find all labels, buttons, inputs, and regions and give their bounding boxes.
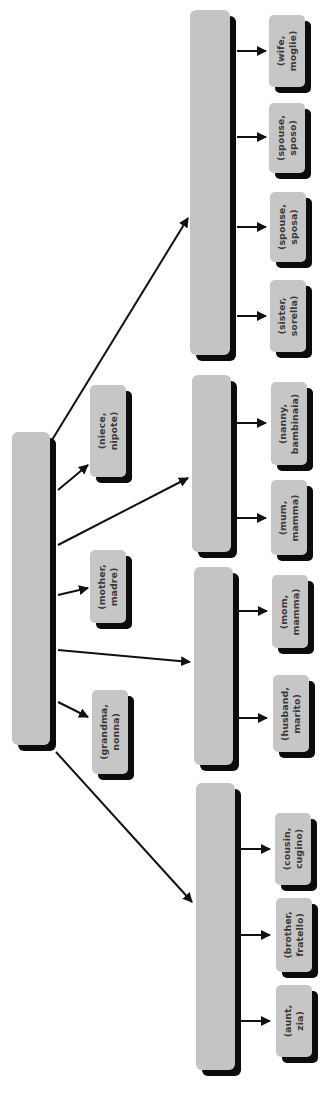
node-label-line1: (brother, xyxy=(282,912,294,959)
group-node-3 xyxy=(194,567,233,765)
node-mother: (mother,madre) xyxy=(90,550,126,623)
node-label-line1: (husband, xyxy=(279,687,291,741)
node-label-line2: mamma) xyxy=(289,494,301,541)
arrow-root-to-group-4 xyxy=(56,752,192,902)
node-label-line1: (wife, xyxy=(275,31,287,72)
node-label-line1: (spouse, xyxy=(276,204,288,250)
node-label-line2: nipote) xyxy=(108,412,120,451)
arrow-root-to-mother xyxy=(58,588,88,595)
node-label-line1: (niece, xyxy=(96,412,108,451)
leaf-nanny: (nanny,bambinaia) xyxy=(271,382,307,465)
node-label-line2: madre) xyxy=(108,564,120,609)
node-label-line1: (spouse, xyxy=(275,115,287,161)
node-label-line1: (nanny, xyxy=(277,393,289,453)
node-label-line1: (mother, xyxy=(96,564,108,609)
node-label-line2: nonna) xyxy=(110,704,122,760)
leaf-brother: (brother,fratello) xyxy=(276,898,312,972)
leaf-spouse-sposa: (spouse,sposa) xyxy=(270,192,306,262)
group-node-4 xyxy=(196,783,235,1070)
leaf-mom: (mom,mamma) xyxy=(272,575,308,648)
node-label-line1: (grandma, xyxy=(98,704,110,760)
node-label-line1: (aunt, xyxy=(282,1005,294,1037)
arrow-root-to-group-3 xyxy=(58,650,190,662)
node-niece: (niece,nipote) xyxy=(90,385,126,477)
node-label-line1: (mom, xyxy=(278,588,290,635)
leaf-aunt: (aunt,zia) xyxy=(276,985,312,1057)
root-node xyxy=(12,432,50,745)
arrow-root-to-grandma xyxy=(58,702,88,717)
node-label-line2: sorella) xyxy=(288,296,300,337)
node-label-line1: (cousin, xyxy=(281,828,293,871)
node-label-line2: bambinaia) xyxy=(289,393,301,453)
arrow-root-to-niece xyxy=(58,465,88,490)
node-label-line1: (sister, xyxy=(276,296,288,337)
group-node-2 xyxy=(192,375,231,552)
arrow-root-to-group-2 xyxy=(58,478,188,545)
leaf-mum: (mum,mamma) xyxy=(271,480,307,555)
leaf-husband: (husband,marito) xyxy=(273,675,309,752)
node-label-line2: zia) xyxy=(294,1005,306,1037)
node-label-line2: moglie) xyxy=(287,31,299,72)
node-label-line2: mamma) xyxy=(290,588,302,635)
node-grandma: (grandma,nonna) xyxy=(92,690,128,774)
node-label-line2: fratello) xyxy=(294,912,306,959)
node-label-line2: marito) xyxy=(291,687,303,741)
leaf-cousin: (cousin,cugino) xyxy=(275,813,311,885)
node-label-line1: (mum, xyxy=(277,494,289,541)
group-node-1 xyxy=(190,10,230,355)
leaf-sister: (sister,sorella) xyxy=(270,280,306,352)
node-label-line2: cugino) xyxy=(293,828,305,871)
leaf-wife: (wife,moglie) xyxy=(269,15,305,87)
leaf-spouse-sposo: (spouse,sposo) xyxy=(269,103,305,173)
node-label-line2: sposa) xyxy=(288,204,300,250)
node-label-line2: sposo) xyxy=(287,115,299,161)
